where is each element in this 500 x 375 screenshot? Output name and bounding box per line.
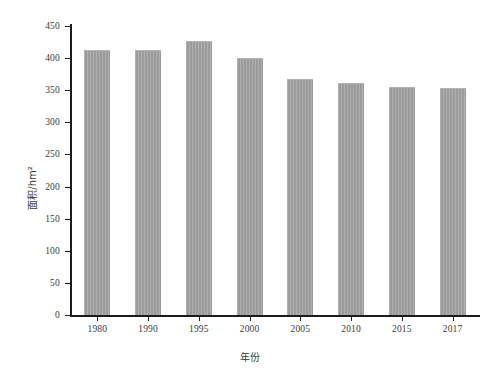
x-axis-title: 年份 (0, 349, 500, 364)
y-axis-tick-label: 100 (45, 246, 60, 256)
y-axis-tick (65, 122, 72, 123)
bar (287, 79, 313, 315)
bar (440, 88, 466, 315)
y-axis-tick (65, 58, 72, 59)
x-axis-tick (199, 315, 200, 321)
x-axis-tick (402, 315, 403, 321)
y-axis-tick (65, 219, 72, 220)
x-axis-tick (351, 315, 352, 321)
y-axis-tick (65, 154, 72, 155)
y-axis-tick-label: 0 (55, 310, 60, 320)
y-axis-tick-label: 350 (45, 85, 60, 95)
bar (186, 41, 212, 315)
bar (84, 50, 110, 315)
x-axis-tick (97, 315, 98, 321)
x-axis-spine (70, 315, 480, 317)
x-axis-tick-label: 2000 (240, 324, 260, 334)
y-axis-tick-label: 400 (45, 53, 60, 63)
y-axis-tick (65, 251, 72, 252)
x-axis-tick-label: 2010 (341, 324, 361, 334)
bar (338, 83, 364, 315)
x-axis-tick (148, 315, 149, 321)
y-axis-tick-label: 150 (45, 214, 60, 224)
bar-chart-figure: 面积/hm² 年份 050100150200250300350400450198… (0, 0, 500, 375)
x-axis-tick (250, 315, 251, 321)
x-axis-tick-label: 1980 (87, 324, 107, 334)
y-axis-tick (65, 26, 72, 27)
y-axis-tick-label: 200 (45, 182, 60, 192)
y-axis-tick-label: 250 (45, 149, 60, 159)
y-axis-tick-label: 450 (45, 21, 60, 31)
plot-area: 0501001502002503003504004501980199019952… (72, 26, 478, 315)
y-axis-tick (65, 283, 72, 284)
y-axis-tick-label: 300 (45, 117, 60, 127)
y-axis-tick (65, 90, 72, 91)
x-axis-tick-label: 2005 (290, 324, 310, 334)
x-axis-tick-label: 2015 (392, 324, 412, 334)
x-axis-tick-label: 1995 (189, 324, 209, 334)
y-axis-tick-label: 50 (50, 278, 60, 288)
y-axis-title: 面积/hm² (24, 166, 39, 209)
y-axis-tick (65, 315, 72, 316)
bar (135, 50, 161, 315)
x-axis-tick-label: 1990 (138, 324, 158, 334)
x-axis-tick (453, 315, 454, 321)
bar (237, 58, 263, 315)
x-axis-tick (300, 315, 301, 321)
x-axis-tick-label: 2017 (443, 324, 463, 334)
y-axis-tick (65, 187, 72, 188)
bar (389, 87, 415, 315)
